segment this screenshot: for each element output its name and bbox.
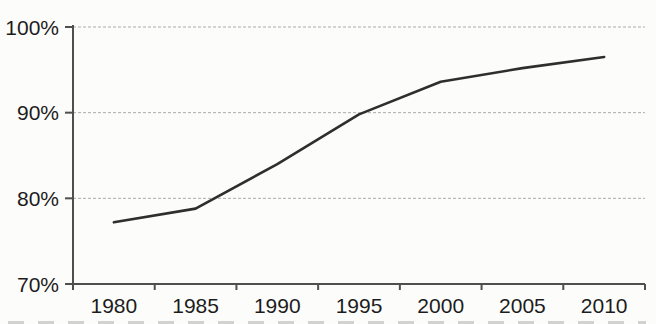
x-tick-label: 1980	[90, 294, 137, 317]
x-tick-label: 1995	[336, 294, 383, 317]
y-tick-label: 100%	[5, 16, 59, 39]
data-series-line	[114, 57, 604, 222]
y-tick-label: 70%	[17, 273, 59, 296]
x-tick-label: 2000	[417, 294, 464, 317]
x-tick-label: 2005	[499, 294, 546, 317]
y-tick-label: 90%	[17, 101, 59, 124]
chart-canvas: 70%80%90%100%198019851990199520002005201…	[0, 0, 656, 324]
y-tick-label: 80%	[17, 187, 59, 210]
line-chart-figure: 70%80%90%100%198019851990199520002005201…	[0, 0, 656, 324]
x-tick-label: 1985	[172, 294, 219, 317]
x-tick-label: 2010	[581, 294, 628, 317]
x-tick-label: 1990	[254, 294, 301, 317]
